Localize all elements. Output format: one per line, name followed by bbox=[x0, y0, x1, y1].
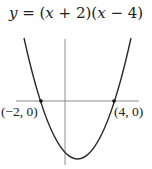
parabola-graph bbox=[0, 0, 152, 169]
root-point-left bbox=[39, 99, 43, 103]
right-root-label: (4, 0) bbox=[114, 104, 143, 120]
root-point-right bbox=[112, 99, 116, 103]
equation-title: y = (x + 2)(x − 4) bbox=[0, 4, 152, 22]
left-root-label: (−2, 0) bbox=[1, 104, 38, 120]
parabola-curve bbox=[24, 38, 131, 159]
